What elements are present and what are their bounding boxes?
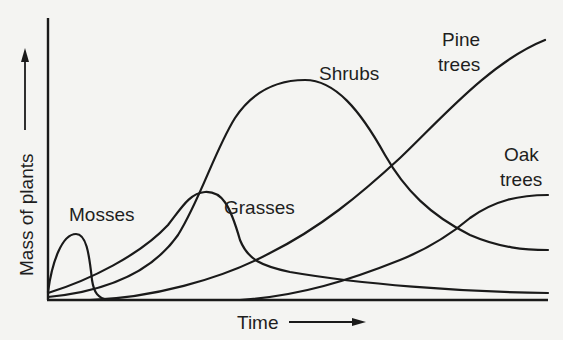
label-pine-line1: Pine	[442, 29, 480, 50]
curve-shrubs	[48, 80, 548, 297]
label-oak-line1: Oak	[504, 144, 539, 165]
label-shrubs: Shrubs	[319, 63, 379, 84]
y-axis-arrow-head-icon	[21, 48, 29, 62]
label-pine-line2: trees	[438, 54, 480, 75]
curve-pine-trees	[90, 40, 545, 300]
x-axis-label: Time	[237, 312, 279, 333]
label-grasses: Grasses	[224, 197, 295, 218]
y-axis-label-group: Mass of plants	[16, 48, 37, 276]
succession-chart: Mass of plants Time Mosses Grasses Shrub…	[0, 0, 563, 340]
curves	[48, 40, 548, 300]
x-axis-arrow-head-icon	[352, 318, 366, 326]
y-axis-label: Mass of plants	[16, 154, 37, 277]
label-oak-line2: trees	[500, 169, 542, 190]
curve-labels: Mosses Grasses Shrubs Pine trees Oak tre…	[69, 29, 542, 225]
x-axis-label-group: Time	[237, 312, 366, 333]
label-mosses: Mosses	[69, 204, 134, 225]
